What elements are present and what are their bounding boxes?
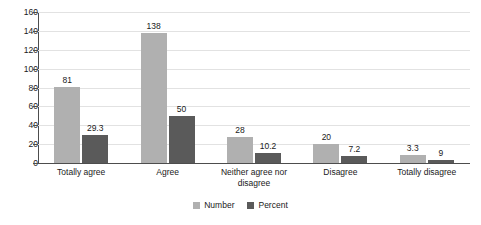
x-axis-category-label: Totally disagree (384, 167, 470, 178)
x-axis-category-labels: Totally agreeAgreeNeither agree nor disa… (38, 167, 470, 197)
bar-percent (341, 156, 367, 163)
bar-group: 2810.2 (211, 12, 297, 163)
bar-group: 3.39 (384, 12, 470, 163)
x-axis-category-label: Neither agree nor disagree (211, 167, 297, 188)
bar-value-label: 138 (135, 22, 173, 31)
bar-value-label: 7.2 (335, 145, 373, 154)
legend-label: Number (204, 201, 234, 210)
bar-value-label: 28 (221, 126, 259, 135)
legend-label: Percent (258, 201, 287, 210)
chart-legend: NumberPercent (0, 201, 481, 210)
y-axis: 160140120100806040200 (0, 0, 38, 225)
bar-value-label: 9 (422, 149, 460, 158)
bar-percent (255, 153, 281, 163)
bar-group: 8129.3 (38, 12, 124, 163)
legend-swatch-icon (247, 202, 254, 209)
bar-percent (82, 135, 108, 163)
bar-value-label: 10.2 (249, 142, 287, 151)
bar-group: 13850 (124, 12, 210, 163)
bar-percent (428, 160, 454, 163)
legend-item-number[interactable]: Number (193, 201, 234, 210)
legend-item-percent[interactable]: Percent (247, 201, 287, 210)
bar-value-label: 20 (307, 133, 345, 142)
bar-group: 207.2 (297, 12, 383, 163)
bar-value-label: 50 (163, 105, 201, 114)
bar-value-label: 81 (48, 76, 86, 85)
bar-value-label: 29.3 (76, 124, 114, 133)
x-axis-baseline (38, 163, 470, 164)
plot-area: 8129.3138502810.2207.23.39 (38, 12, 470, 163)
x-axis-category-label: Agree (124, 167, 210, 178)
bar-chart: 160140120100806040200 8129.3138502810.22… (0, 0, 481, 225)
x-axis-category-label: Disagree (297, 167, 383, 178)
bar-number (141, 33, 167, 163)
bar-percent (169, 116, 195, 163)
legend-swatch-icon (193, 202, 200, 209)
x-axis-category-label: Totally agree (38, 167, 124, 178)
